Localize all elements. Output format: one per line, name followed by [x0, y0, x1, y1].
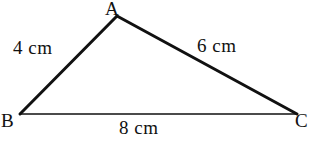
side-length-label-ac: 6 cm [197, 36, 236, 55]
side-ac-line [117, 16, 297, 114]
vertex-label-b: B [1, 111, 14, 130]
side-ab-line [20, 16, 117, 114]
vertex-label-a: A [105, 0, 119, 18]
side-length-label-ab: 4 cm [13, 38, 52, 57]
triangle-diagram: A B C 4 cm 6 cm 8 cm [0, 0, 326, 154]
side-length-label-bc: 8 cm [119, 118, 158, 137]
vertex-label-c: C [295, 111, 308, 130]
triangle-shape [0, 0, 326, 154]
